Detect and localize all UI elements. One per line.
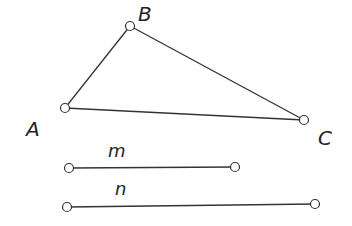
segment-n-start-point [63, 203, 72, 212]
label-b: B [138, 2, 152, 26]
vertex-a [61, 104, 70, 113]
segment-m [69, 167, 235, 168]
label-n: n [115, 178, 126, 199]
label-a: A [24, 117, 40, 141]
segment-m-end-point [231, 163, 240, 172]
segment-n [67, 204, 315, 207]
edge-ab [65, 26, 130, 108]
label-m: m [108, 140, 126, 161]
geometry-diagram: A B C m n [0, 0, 352, 226]
segment-n-end-point [311, 200, 320, 209]
vertex-b [126, 22, 135, 31]
label-c: C [318, 126, 332, 150]
vertex-c [300, 116, 309, 125]
segment-m-start-point [65, 164, 74, 173]
edge-ac [65, 108, 304, 120]
edge-bc [130, 26, 304, 120]
